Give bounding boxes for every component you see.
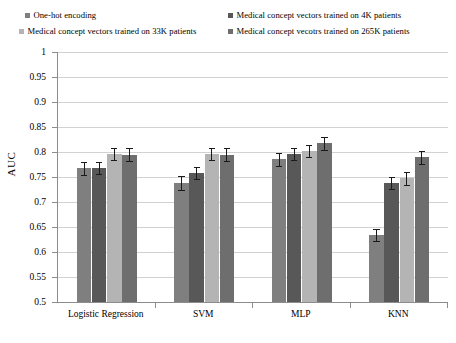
error-bar-cap-upper	[276, 153, 282, 154]
error-bar	[114, 148, 115, 160]
error-bar-cap-upper	[404, 172, 410, 173]
error-bar-cap-upper	[306, 145, 312, 146]
x-axis-tick-label: Logistic Regression	[68, 309, 144, 320]
bar	[400, 178, 415, 302]
legend-label-series-1: Medical concept vectors trained on 4K pa…	[237, 10, 402, 20]
bar	[272, 159, 287, 302]
error-bar-cap-upper	[373, 229, 379, 230]
error-bar	[84, 162, 85, 175]
error-bar	[391, 177, 392, 190]
legend-item-4k-patients: Medical concept vectors trained on 4K pa…	[228, 10, 401, 20]
y-axis-tick-label: 0.5	[0, 297, 52, 307]
error-bar-cap-upper	[126, 148, 132, 149]
y-axis-tick-label: 0.55	[0, 272, 52, 282]
error-bar	[421, 151, 422, 164]
error-bar-cap-lower	[194, 179, 200, 180]
legend-label-series-0: One-hot encoding	[34, 10, 97, 20]
error-bar-cap-upper	[389, 177, 395, 178]
error-bar-cap-lower	[389, 189, 395, 190]
error-bar-cap-lower	[291, 160, 297, 161]
error-bar-cap-lower	[306, 157, 312, 158]
error-bar	[376, 229, 377, 241]
error-bar-cap-upper	[178, 176, 184, 177]
error-bar	[294, 148, 295, 161]
bar	[415, 157, 430, 302]
bar	[92, 168, 107, 302]
gridline	[58, 52, 448, 53]
y-axis-tick-label: 0.6	[0, 247, 52, 257]
error-bar-cap-upper	[291, 148, 297, 149]
y-axis-tick-label: 1	[0, 47, 52, 57]
y-axis-tick-label: 0.85	[0, 122, 52, 132]
error-bar-cap-upper	[194, 167, 200, 168]
error-bar	[309, 145, 310, 157]
legend-swatch-series-1	[228, 13, 233, 18]
error-bar-cap-lower	[81, 175, 87, 176]
error-bar	[181, 176, 182, 190]
error-bar-cap-lower	[111, 160, 117, 161]
error-bar-cap-lower	[321, 150, 327, 151]
error-bar-cap-upper	[81, 162, 87, 163]
y-axis-title: AUC	[5, 134, 17, 194]
bar	[77, 168, 92, 302]
error-bar-cap-lower	[178, 190, 184, 191]
bar	[317, 143, 332, 302]
gridline	[58, 127, 448, 128]
error-bar	[211, 148, 212, 160]
bar	[302, 151, 317, 302]
bar	[107, 154, 122, 302]
error-bar-cap-lower	[276, 166, 282, 167]
error-bar-cap-upper	[321, 137, 327, 138]
x-axis-tick-label: KNN	[388, 309, 409, 320]
y-axis-tick-label: 0.7	[0, 197, 52, 207]
error-bar	[196, 167, 197, 180]
bar	[205, 154, 220, 302]
x-axis-tick-labels: Logistic RegressionSVMMLPKNN	[57, 307, 447, 327]
plot-area	[57, 52, 448, 303]
error-bar-cap-upper	[111, 148, 117, 149]
x-axis-tick-label: MLP	[291, 309, 311, 320]
legend-item-one-hot-encoding: One-hot encoding	[25, 10, 96, 20]
error-bar	[99, 162, 100, 175]
error-bar-cap-upper	[209, 148, 215, 149]
bar	[122, 155, 137, 303]
error-bar	[129, 148, 130, 161]
x-axis-tick-label: SVM	[193, 309, 214, 320]
x-axis-tick-mark	[350, 303, 351, 308]
legend-label-series-3: Medical concept vecotrs trained on 265K …	[237, 26, 410, 36]
bar	[174, 183, 189, 302]
legend-item-265k-patients: Medical concept vecotrs trained on 265K …	[228, 26, 410, 36]
error-bar-cap-lower	[209, 160, 215, 161]
gridline	[58, 152, 448, 153]
error-bar-cap-lower	[224, 161, 230, 162]
legend-label-series-2: Medical concept vectors trained on 33K p…	[28, 26, 197, 36]
y-axis-tick-label: 0.95	[0, 72, 52, 82]
legend-swatch-series-2	[19, 29, 24, 34]
bar	[287, 154, 302, 302]
x-axis-tick-mark	[252, 303, 253, 308]
error-bar-cap-lower	[126, 161, 132, 162]
error-bar-cap-lower	[404, 185, 410, 186]
x-axis-tick-mark	[155, 303, 156, 308]
bar	[220, 155, 235, 303]
error-bar-cap-upper	[96, 162, 102, 163]
error-bar	[406, 172, 407, 185]
chart-legend: One-hot encoding Medical concept vectors…	[0, 0, 456, 44]
error-bar	[226, 148, 227, 161]
error-bar	[324, 137, 325, 150]
bar	[189, 173, 204, 302]
error-bar-cap-lower	[96, 174, 102, 175]
gridline	[58, 102, 448, 103]
y-axis-tick-label: 0.9	[0, 97, 52, 107]
error-bar-cap-lower	[419, 164, 425, 165]
legend-swatch-series-0	[25, 13, 30, 18]
legend-swatch-series-3	[228, 29, 233, 34]
error-bar-cap-upper	[224, 148, 230, 149]
legend-item-33k-patients: Medical concept vectors trained on 33K p…	[19, 26, 196, 36]
bar	[369, 235, 384, 302]
error-bar-cap-lower	[373, 241, 379, 242]
bar	[384, 183, 399, 302]
error-bar	[279, 153, 280, 166]
error-bar-cap-upper	[419, 151, 425, 152]
y-axis-tick-label: 0.65	[0, 222, 52, 232]
